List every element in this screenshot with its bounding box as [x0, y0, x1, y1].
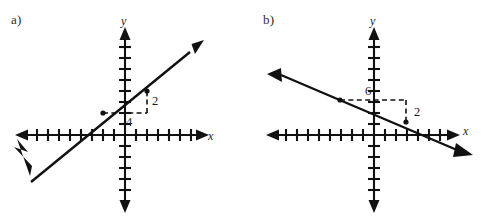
plotted-line-a [14, 40, 204, 182]
plotted-line-b [267, 68, 473, 157]
slope-run-label-a: 4 [126, 115, 133, 129]
y-axis-b [368, 27, 380, 213]
y-axis-label-a: y [120, 14, 127, 28]
slope-rise-label-a: 2 [152, 94, 158, 108]
graph-panel-b: b) [251, 0, 502, 224]
data-point-b-1 [337, 97, 342, 102]
y-axis-label-b: y [369, 14, 376, 28]
x-axis-a [15, 129, 209, 141]
slope-run-label-b: 6 [365, 84, 371, 98]
graph-panel-a: a) [0, 0, 251, 224]
coordinate-plane-a: 4 2 x y [0, 0, 251, 224]
x-axis-label-b: x [462, 124, 469, 138]
x-axis-label-a: x [207, 129, 214, 143]
slope-rise-label-b: 2 [414, 105, 420, 119]
data-point-b-2 [403, 119, 408, 124]
coordinate-plane-b: 6 2 x y [251, 0, 502, 224]
data-point-a-2 [144, 88, 149, 93]
data-point-a-1 [100, 110, 105, 115]
